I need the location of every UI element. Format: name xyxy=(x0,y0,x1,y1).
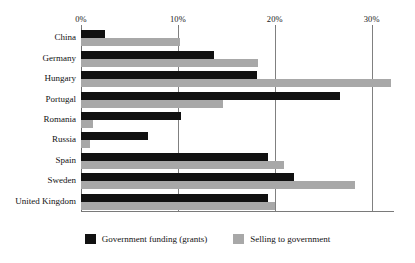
y-category-label: China xyxy=(0,32,76,43)
y-category-label: Sweden xyxy=(0,175,76,186)
bar-group xyxy=(81,48,394,68)
legend-entry[interactable]: Selling to government xyxy=(233,234,330,245)
bar xyxy=(81,202,275,210)
bar xyxy=(81,51,214,59)
bar-group xyxy=(81,151,394,171)
bar xyxy=(81,132,148,140)
x-tick-label: 10% xyxy=(170,14,186,25)
bar xyxy=(81,79,391,87)
bar-group xyxy=(81,171,394,191)
bar xyxy=(81,100,223,108)
legend-swatch-icon xyxy=(85,234,96,244)
bar-group xyxy=(81,28,394,48)
y-category-label: Hungary xyxy=(0,73,76,84)
legend-label: Selling to government xyxy=(250,234,330,245)
bar xyxy=(81,38,180,46)
bar-group xyxy=(81,89,394,109)
bar-chart: 0%10%20%30% ChinaGermanyHungaryPortugalR… xyxy=(0,0,415,263)
bar xyxy=(81,173,294,181)
legend-swatch-icon xyxy=(233,234,244,244)
y-category-label: Spain xyxy=(0,155,76,166)
y-category-label: Romania xyxy=(0,114,76,125)
y-category-label: United Kingdom xyxy=(0,196,76,207)
bar xyxy=(81,92,340,100)
bar xyxy=(81,181,355,189)
chart-legend: Government funding (grants)Selling to go… xyxy=(0,231,415,247)
bar-group xyxy=(81,110,394,130)
legend-label: Government funding (grants) xyxy=(102,234,207,245)
bar-group xyxy=(81,69,394,89)
bar xyxy=(81,153,268,161)
x-tick-label: 20% xyxy=(267,14,283,25)
bar xyxy=(81,140,90,148)
bar-group xyxy=(81,192,394,212)
bar xyxy=(81,161,284,169)
x-axis-line xyxy=(81,211,394,212)
bar xyxy=(81,30,105,38)
y-category-label: Russia xyxy=(0,134,76,145)
plot-area xyxy=(81,28,394,212)
y-axis-category-labels: ChinaGermanyHungaryPortugalRomaniaRussia… xyxy=(0,28,78,212)
bar xyxy=(81,194,268,202)
bar-group xyxy=(81,130,394,150)
x-tick-label: 30% xyxy=(364,14,380,25)
x-tick-label: 0% xyxy=(75,14,87,25)
legend-entry[interactable]: Government funding (grants) xyxy=(85,234,207,245)
bar xyxy=(81,71,257,79)
bar xyxy=(81,59,258,67)
y-category-label: Portugal xyxy=(0,94,76,105)
bar xyxy=(81,112,181,120)
y-category-label: Germany xyxy=(0,53,76,64)
bar xyxy=(81,120,93,128)
